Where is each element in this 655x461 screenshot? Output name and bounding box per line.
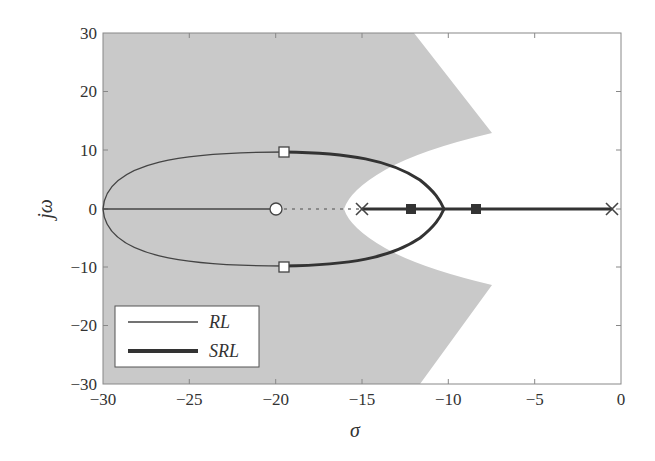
legend: RL SRL: [115, 306, 259, 367]
open-square-marker-upper: [279, 147, 289, 157]
root-locus-chart: 30 20 10 0 −10 −20 −30 −30 −25 −20 −15 −…: [0, 0, 655, 461]
svg-text:30: 30: [80, 24, 97, 43]
legend-rl-label: RL: [208, 312, 230, 332]
svg-text:10: 10: [80, 141, 97, 160]
filled-square-marker-2: [471, 204, 481, 214]
filled-square-marker-1: [406, 204, 416, 214]
svg-text:0: 0: [89, 200, 98, 219]
svg-text:−10: −10: [435, 390, 462, 409]
x-tick-labels: −30 −25 −20 −15 −10 −5 0: [90, 390, 626, 409]
y-tick-labels: 30 20 10 0 −10 −20 −30: [70, 24, 97, 394]
svg-text:−25: −25: [176, 390, 203, 409]
svg-text:−10: −10: [70, 258, 97, 277]
legend-srl-label: SRL: [209, 341, 239, 361]
open-square-marker-lower: [279, 262, 289, 272]
svg-text:0: 0: [617, 390, 626, 409]
svg-text:−30: −30: [90, 390, 117, 409]
svg-text:−20: −20: [70, 316, 97, 335]
y-axis-label: jω: [34, 199, 57, 222]
svg-text:20: 20: [80, 82, 97, 101]
zero-marker: [270, 203, 282, 215]
svg-text:−20: −20: [262, 390, 289, 409]
x-axis-label: σ: [350, 419, 361, 441]
svg-text:−5: −5: [526, 390, 544, 409]
svg-text:−15: −15: [349, 390, 376, 409]
